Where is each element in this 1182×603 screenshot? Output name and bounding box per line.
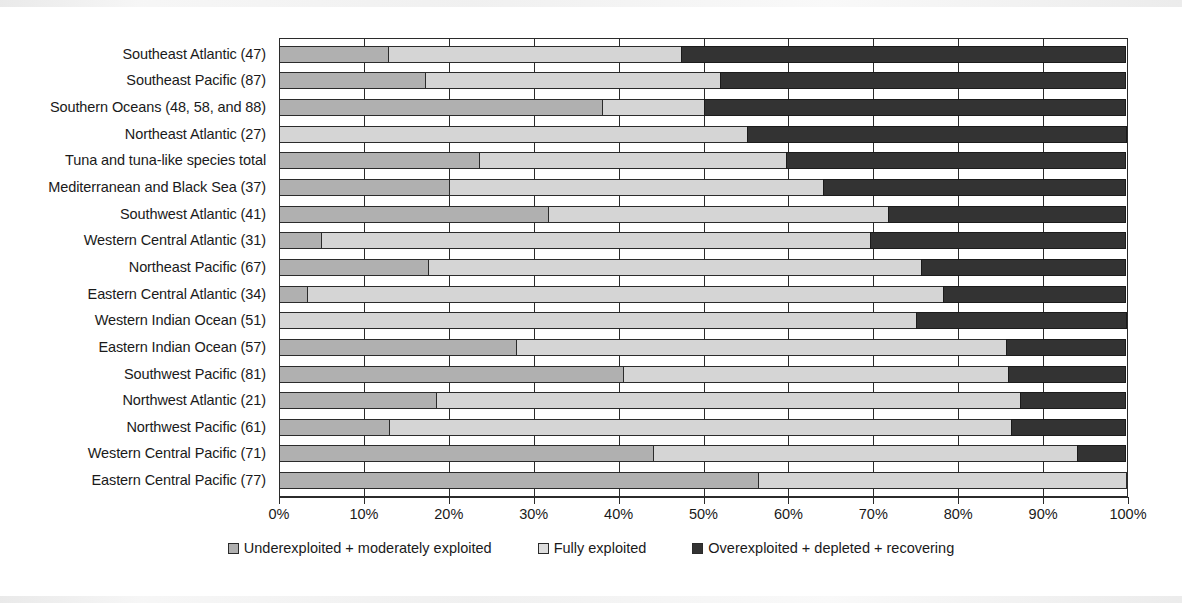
bar-segment <box>279 419 390 436</box>
bar-segment <box>704 99 1126 116</box>
bar-segment <box>321 232 870 249</box>
light-gray-swatch-icon <box>228 543 239 554</box>
bar-segment <box>279 366 624 383</box>
bar-segment <box>516 339 1008 356</box>
bar-segment <box>602 99 705 116</box>
bar-segment <box>653 445 1078 462</box>
category-label: Western Central Pacific (71) <box>0 445 272 462</box>
x-axis-tick <box>449 497 450 504</box>
scan-edge-top <box>0 0 1182 7</box>
bar-row <box>279 232 1128 249</box>
bar-segment <box>428 259 921 276</box>
bar-row <box>279 445 1128 462</box>
x-axis-tick-label: 90% <box>1029 505 1058 523</box>
x-axis-tick-label: 10% <box>349 505 378 523</box>
bar-segment <box>279 286 308 303</box>
legend-label: Fully exploited <box>554 540 647 556</box>
legend-item[interactable]: Overexploited + depleted + recovering <box>692 540 954 556</box>
bar-segment <box>747 126 1127 143</box>
bar-segment <box>279 126 748 143</box>
bar-row <box>279 259 1128 276</box>
bar-segment <box>279 445 654 462</box>
bar-segment <box>786 152 1126 169</box>
bar-segment <box>1020 392 1126 409</box>
stacked-bar-chart: Southeast Atlantic (47)Southeast Pacific… <box>0 0 1182 603</box>
category-label: Northwest Pacific (61) <box>0 419 272 436</box>
x-axis <box>279 497 1128 505</box>
x-axis-tick-label: 20% <box>434 505 463 523</box>
x-axis-tick-label: 30% <box>519 505 548 523</box>
category-label: Western Indian Ocean (51) <box>0 312 272 329</box>
bar-row <box>279 72 1128 89</box>
bar-row <box>279 206 1128 223</box>
plot-area <box>279 38 1128 497</box>
bar-row <box>279 366 1128 383</box>
x-axis-tick <box>534 497 535 504</box>
category-label: Southeast Pacific (87) <box>0 72 272 89</box>
bar-segment <box>479 152 787 169</box>
bar-segment <box>279 99 603 116</box>
category-label: Southern Oceans (48, 58, and 88) <box>0 99 272 116</box>
bar-row <box>279 472 1128 489</box>
bar-segment <box>943 286 1126 303</box>
category-label: Southeast Atlantic (47) <box>0 46 272 63</box>
bar-segment <box>1008 366 1126 383</box>
x-axis-tick-labels: 0%10%20%30%40%50%60%70%80%90%100% <box>0 505 1182 525</box>
category-label: Eastern Indian Ocean (57) <box>0 339 272 356</box>
bar-segment <box>870 232 1126 249</box>
bar-segment <box>389 419 1011 436</box>
bar-segment <box>279 232 322 249</box>
bar-segment <box>1077 445 1126 462</box>
category-label: Western Central Atlantic (31) <box>0 232 272 249</box>
bar-segment <box>279 339 517 356</box>
dark-gray-swatch-icon <box>692 543 703 554</box>
legend-item[interactable]: Fully exploited <box>538 540 647 556</box>
bar-segment <box>279 206 549 223</box>
bar-segment <box>279 152 480 169</box>
chart-legend: Underexploited + moderately exploitedFul… <box>0 540 1182 556</box>
x-axis-tick-label: 60% <box>774 505 803 523</box>
bar-segment <box>436 392 1021 409</box>
bar-rows <box>279 38 1128 497</box>
category-label: Eastern Central Pacific (77) <box>0 472 272 489</box>
legend-label: Overexploited + depleted + recovering <box>708 540 954 556</box>
bar-row <box>279 419 1128 436</box>
bar-row <box>279 286 1128 303</box>
x-axis-tick-label: 50% <box>689 505 718 523</box>
x-axis-tick-label: 70% <box>859 505 888 523</box>
pale-gray-swatch-icon <box>538 543 549 554</box>
bar-segment <box>823 179 1126 196</box>
bar-segment <box>888 206 1126 223</box>
bar-row <box>279 339 1128 356</box>
category-label: Northwest Atlantic (21) <box>0 392 272 409</box>
bar-segment <box>921 259 1126 276</box>
legend-item[interactable]: Underexploited + moderately exploited <box>228 540 492 556</box>
bar-segment <box>623 366 1009 383</box>
x-axis-tick <box>788 497 789 504</box>
bar-segment <box>388 46 682 63</box>
category-label: Northeast Atlantic (27) <box>0 126 272 143</box>
bar-segment <box>1011 419 1126 436</box>
bar-row <box>279 99 1128 116</box>
x-axis-tick <box>704 497 705 504</box>
bar-segment <box>307 286 945 303</box>
category-label: Southwest Pacific (81) <box>0 366 272 383</box>
category-label: Northeast Pacific (67) <box>0 259 272 276</box>
x-axis-tick-label: 80% <box>944 505 973 523</box>
bar-row <box>279 152 1128 169</box>
bar-segment <box>279 72 426 89</box>
category-axis-labels: Southeast Atlantic (47)Southeast Pacific… <box>0 38 272 497</box>
bar-segment <box>279 46 389 63</box>
bar-segment <box>681 46 1126 63</box>
bar-row <box>279 392 1128 409</box>
bar-row <box>279 312 1128 329</box>
bar-segment <box>279 472 759 489</box>
bar-segment <box>449 179 824 196</box>
bar-segment <box>425 72 721 89</box>
x-axis-tick <box>364 497 365 504</box>
x-axis-tick <box>873 497 874 504</box>
x-axis-tick-label: 0% <box>269 505 290 523</box>
bar-segment <box>279 312 917 329</box>
legend-label: Underexploited + moderately exploited <box>244 540 492 556</box>
category-label: Mediterranean and Black Sea (37) <box>0 179 272 196</box>
